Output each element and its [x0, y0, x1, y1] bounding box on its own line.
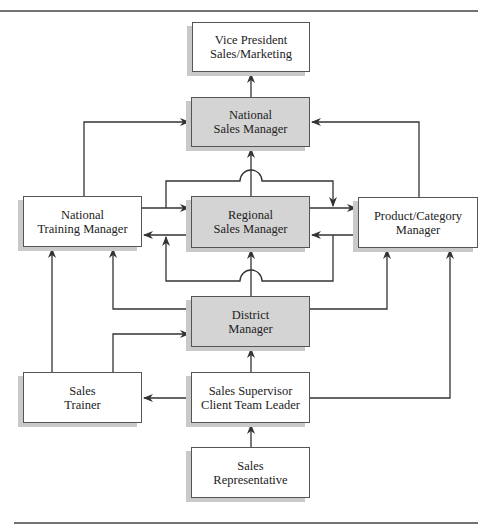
node-national-training-manager: National Training Manager	[23, 196, 142, 247]
node-district-manager: District Manager	[191, 296, 310, 347]
node-national-sales-manager: National Sales Manager	[191, 97, 310, 147]
node-label-line2: Trainer	[64, 398, 100, 412]
node-label-line2: Sales Manager	[214, 122, 288, 136]
node-label-line1: District	[232, 308, 270, 322]
node-label-line1: National	[61, 208, 104, 222]
node-label-line2: Sales/Marketing	[210, 47, 292, 61]
node-label-line2: Training Manager	[37, 222, 127, 236]
node-label-line2: Sales Manager	[214, 222, 288, 236]
node-label-line2: Client Team Leader	[201, 398, 300, 412]
node-label-line2: Manager	[396, 223, 440, 237]
node-label-line2: Representative	[213, 473, 287, 487]
node-label-line1: National	[229, 108, 272, 122]
node-label-line2: Manager	[228, 322, 272, 336]
node-sales-representative: Sales Representative	[191, 447, 310, 498]
node-label-line1: Sales Supervisor	[209, 384, 293, 398]
node-label-line1: Sales	[237, 459, 263, 473]
node-vice-president: Vice President Sales/Marketing	[192, 22, 310, 72]
node-label-line1: Sales	[69, 384, 95, 398]
node-sales-supervisor: Sales Supervisor Client Team Leader	[191, 372, 310, 423]
node-sales-trainer: Sales Trainer	[23, 372, 142, 423]
node-regional-sales-manager: Regional Sales Manager	[191, 196, 310, 248]
node-product-category-manager: Product/Category Manager	[358, 197, 478, 248]
node-label-line1: Vice President	[215, 33, 288, 47]
node-label-line1: Product/Category	[374, 209, 462, 223]
node-label-line1: Regional	[228, 208, 273, 222]
